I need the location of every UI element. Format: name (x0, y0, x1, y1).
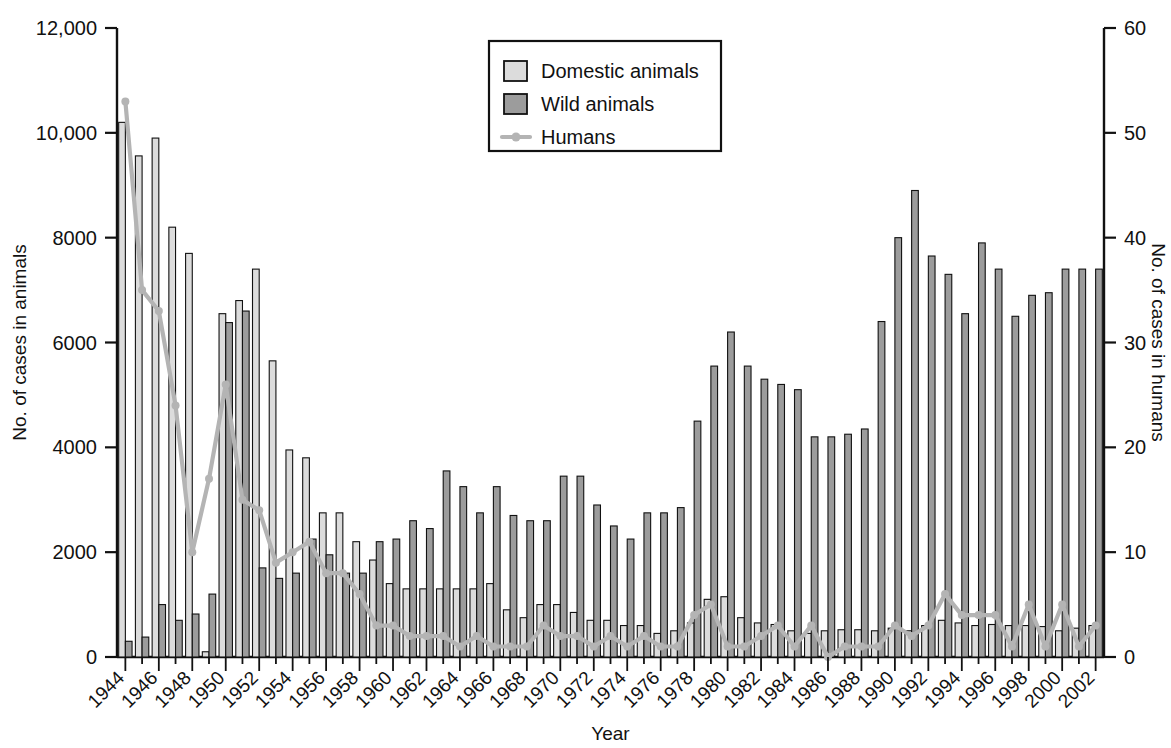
humans-marker (757, 632, 765, 640)
bar-domestic (152, 138, 159, 657)
legend-swatch-domestic (504, 61, 527, 81)
x-axis-tick-label: 1948 (150, 667, 195, 712)
x-axis-tick-label: 1990 (853, 667, 898, 712)
x-axis-tick-label: 1944 (83, 667, 128, 712)
bar-domestic (119, 122, 126, 657)
x-axis-tick-label: 1946 (117, 667, 162, 712)
legend-swatch-wild (504, 94, 527, 114)
bars-group (119, 122, 1103, 657)
humans-marker (1075, 643, 1083, 651)
bar-wild (795, 390, 802, 657)
right-axis-tick-label: 20 (1124, 436, 1146, 458)
x-axis-tick-label: 1956 (284, 667, 329, 712)
x-axis-tick-label: 1978 (652, 667, 697, 712)
humans-marker (640, 632, 648, 640)
bar-wild (661, 513, 668, 657)
bar-wild (962, 314, 969, 657)
humans-marker (389, 622, 397, 630)
bar-domestic (972, 626, 979, 657)
x-axis-tick-label: 1958 (318, 667, 363, 712)
x-axis-tick-label: 1982 (719, 667, 764, 712)
chart-root: 0200040006000800010,00012,00001020304050… (0, 0, 1171, 748)
bar-wild (878, 322, 885, 657)
x-axis-labels: 1944194619481950195219541956195819601962… (83, 667, 1098, 712)
x-axis-tick-label: 1954 (251, 667, 296, 712)
bar-wild (242, 311, 249, 657)
x-axis-tick-label: 1972 (552, 667, 597, 712)
bar-domestic (989, 625, 996, 657)
bar-wild (176, 620, 183, 657)
bar-wild (861, 429, 868, 657)
right-axis-tick-label: 40 (1124, 227, 1146, 249)
legend-label: Humans (541, 126, 615, 148)
bar-domestic (587, 620, 594, 657)
bar-domestic (386, 584, 393, 657)
bar-wild (744, 366, 751, 657)
bar-wild (159, 605, 166, 657)
humans-marker (991, 611, 999, 619)
bar-wild (259, 568, 266, 657)
bar-domestic (169, 227, 176, 657)
humans-marker (356, 590, 364, 598)
humans-marker (724, 643, 732, 651)
humans-marker (473, 632, 481, 640)
legend-label: Wild animals (541, 93, 654, 115)
bar-domestic (269, 361, 276, 657)
humans-marker (774, 622, 782, 630)
humans-marker (155, 307, 163, 315)
left-axis-tick-label: 6000 (53, 332, 98, 354)
humans-marker (740, 643, 748, 651)
x-axis-title: Year (591, 723, 630, 744)
bar-wild (460, 487, 467, 657)
bar-wild (376, 542, 383, 657)
bar-domestic (1055, 631, 1062, 657)
bar-wild (443, 471, 450, 657)
right-axis-tick-label: 60 (1124, 17, 1146, 39)
bar-wild (828, 437, 835, 657)
bar-domestic (1022, 626, 1029, 657)
bar-domestic (186, 253, 193, 657)
humans-marker (690, 611, 698, 619)
bar-domestic (370, 560, 377, 657)
left-axis-tick-label: 10,000 (36, 122, 97, 144)
humans-marker (908, 632, 916, 640)
humans-marker (272, 559, 280, 567)
x-axis-tick-label: 1966 (451, 667, 496, 712)
humans-marker (1092, 622, 1100, 630)
bar-domestic (303, 458, 310, 657)
bar-domestic (353, 542, 360, 657)
humans-marker (573, 632, 581, 640)
x-axis-tick-label: 1962 (385, 667, 430, 712)
bar-wild (125, 641, 132, 657)
x-axis-tick-label: 1994 (920, 667, 965, 712)
x-axis-tick-label: 1986 (786, 667, 831, 712)
x-axis-tick-label: 1964 (418, 667, 463, 712)
bar-wild (845, 434, 852, 657)
bar-domestic (470, 589, 477, 657)
bar-domestic (319, 513, 326, 657)
bar-wild (912, 190, 919, 657)
bar-wild (1096, 269, 1103, 657)
bar-domestic (938, 620, 945, 657)
bar-wild (1012, 316, 1019, 657)
rabies-cases-chart: 0200040006000800010,00012,00001020304050… (0, 0, 1171, 748)
humans-marker (172, 401, 180, 409)
humans-marker (673, 643, 681, 651)
bar-wild (995, 269, 1002, 657)
humans-marker (1008, 643, 1016, 651)
x-axis-tick-label: 1950 (184, 667, 229, 712)
humans-marker (456, 643, 464, 651)
bar-wild (577, 476, 584, 657)
humans-marker (255, 506, 263, 514)
bar-domestic (437, 589, 444, 657)
bar-wild (1062, 269, 1069, 657)
legend: Domestic animalsWild animalsHumans (489, 41, 721, 151)
bar-wild (209, 594, 216, 657)
bar-wild (192, 614, 199, 657)
bar-domestic (202, 652, 209, 657)
bar-wild (544, 521, 551, 657)
x-axis-tick-label: 1988 (820, 667, 865, 712)
x-axis-tick-label: 1980 (686, 667, 731, 712)
bar-domestic (955, 623, 962, 657)
humans-marker (289, 548, 297, 556)
